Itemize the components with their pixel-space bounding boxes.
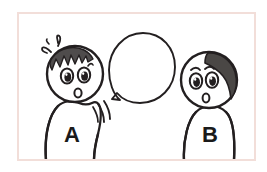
character-b-eye-highlight-right xyxy=(210,77,212,80)
character-b-label: B xyxy=(202,122,218,147)
cartoon-illustration: A xyxy=(0,0,267,172)
character-a-label: A xyxy=(64,122,80,147)
speech-bubble-shape xyxy=(109,33,175,103)
character-a-eye-highlight-right xyxy=(82,72,84,75)
illustration-scene: A xyxy=(0,0,267,172)
character-b-eye-highlight-left xyxy=(194,78,196,81)
speech-bubble xyxy=(109,33,175,103)
character-a-eye-highlight-left xyxy=(65,73,67,76)
character-a-mouth xyxy=(74,89,81,98)
character-b-mouth xyxy=(203,94,210,103)
